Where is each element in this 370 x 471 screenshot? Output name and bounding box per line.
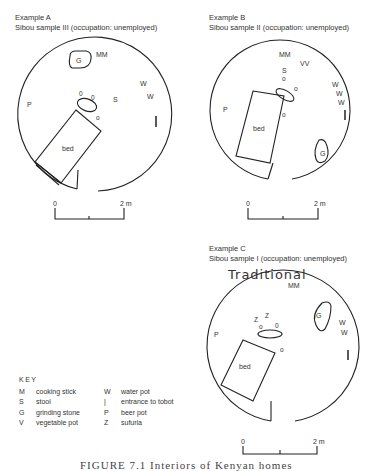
example-b-hut-wall	[210, 40, 350, 179]
example-b-label-g: G	[320, 150, 325, 157]
example-c-label-mm: MM	[288, 282, 300, 289]
example-b-label-s: S	[282, 67, 287, 74]
key-title: KEY	[19, 375, 174, 386]
key-desc: sufuria	[121, 418, 174, 429]
key-code: |	[104, 397, 121, 408]
example-a-label-o1: 0	[79, 90, 83, 97]
example-b-label-p: P	[223, 106, 228, 113]
example-b-stool	[274, 86, 296, 104]
example-b-label-vv: VV	[300, 60, 310, 67]
key-row: G grinding stone P beer pot	[19, 408, 174, 419]
key-desc: beer pot	[121, 408, 174, 419]
example-b-labels: MM VV S o o o W W W P G bed 0 2 m	[223, 51, 345, 207]
key-row: S stool | entrance to tobot	[19, 397, 174, 408]
key-desc: entrance to tobot	[121, 397, 174, 408]
example-c-label-o3: o	[280, 346, 284, 353]
example-c-label-w1: W	[339, 319, 346, 326]
example-a-label-w1: W	[140, 80, 147, 87]
example-b-label-bed: bed	[253, 125, 265, 132]
example-a-labels: MM G W W P S 0 0 o bed 0 2 m	[27, 51, 154, 207]
example-a-label-o2: 0	[91, 94, 95, 101]
example-a-label-g: G	[76, 57, 81, 64]
example-a-hut-wall	[18, 37, 172, 191]
key-desc: cooking stick	[36, 387, 104, 398]
key-desc: vegetable pot	[36, 418, 104, 429]
example-b-label-w3: W	[338, 99, 345, 106]
example-c-label-z1: Z	[254, 316, 258, 323]
figure-caption: FIGURE 7.1 Interiors of Kenyan homes	[80, 459, 293, 471]
example-c-label-w2: W	[341, 329, 348, 336]
example-b-scale-bar	[248, 208, 318, 219]
example-b-scale-start: 0	[246, 200, 250, 207]
example-b-scale-end: 2 m	[314, 200, 326, 207]
example-b-label-w1: W	[332, 81, 339, 88]
key-code: W	[104, 387, 121, 398]
example-c-bed	[221, 340, 275, 401]
key-desc: stool	[36, 397, 104, 408]
example-a-label-p: P	[27, 101, 32, 108]
example-c-scale-start: 0	[241, 438, 245, 445]
key-code: S	[19, 397, 36, 408]
example-c-stool	[258, 330, 282, 338]
example-c-labels: MM G Z Z o 0 o W W P bed 0 2 m	[214, 282, 348, 445]
key-code: V	[19, 418, 36, 429]
example-c-label-z2: Z	[265, 312, 269, 319]
example-a-label-bed: bed	[62, 145, 74, 152]
example-c-label-g: G	[316, 312, 321, 319]
example-a-label-mm: MM	[96, 51, 108, 58]
example-a-label-w2: W	[147, 93, 154, 100]
example-c-scale-bar	[243, 446, 317, 454]
example-a-scale-end: 2 m	[120, 200, 132, 207]
key-code: G	[19, 408, 36, 419]
example-c-scale-end: 2 m	[313, 438, 325, 445]
key-desc: water pot	[121, 387, 174, 398]
key-code: P	[104, 408, 121, 419]
example-b-label-w2: W	[336, 90, 343, 97]
example-a-scale-start: 0	[53, 200, 57, 207]
key-code: M	[19, 387, 36, 398]
example-c-handwritten-note: Traditional	[227, 267, 307, 282]
example-a-scale-bar	[55, 208, 124, 219]
key-desc: grinding stone	[36, 408, 104, 419]
example-b-label-mm: MM	[279, 51, 291, 58]
example-b-label-o3: o	[282, 111, 286, 118]
key-row: V vegetable pot Z sufuria	[19, 418, 174, 429]
example-a-label-s: S	[113, 96, 118, 103]
example-b-label-o2: o	[294, 85, 298, 92]
key-code: Z	[104, 418, 121, 429]
key-table: M cooking stick W water pot S stool | en…	[19, 387, 174, 429]
example-b-label-o1: o	[282, 75, 286, 82]
example-a-label-o3: o	[96, 114, 100, 121]
example-c-label-p: P	[214, 331, 219, 338]
example-c-label-o2: 0	[275, 322, 279, 329]
key-row: M cooking stick W water pot	[19, 387, 174, 398]
example-c-label-o1: o	[259, 323, 263, 330]
example-c-label-bed: bed	[239, 363, 251, 370]
example-a-stool	[76, 96, 99, 114]
legend-key: KEY M cooking stick W water pot S stool …	[19, 375, 174, 429]
